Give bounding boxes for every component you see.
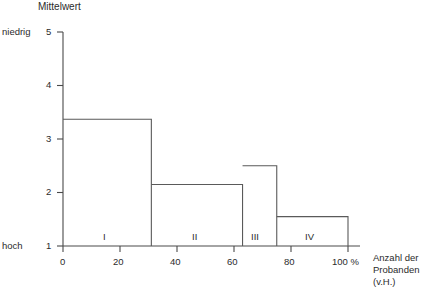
x-tick-label-100: 100 %: [332, 256, 359, 267]
segment-label-III: III: [251, 231, 259, 242]
x-tick-label-0: 0: [60, 256, 65, 267]
x-tick-label-80: 80: [284, 256, 295, 267]
x-tick-label-40: 40: [170, 256, 181, 267]
segment-label-II: II: [192, 231, 197, 242]
segment-label-I: I: [103, 231, 106, 242]
y-axis-title: Mittelwert: [38, 1, 81, 12]
y-tick-label-4: 4: [46, 79, 51, 90]
segment-label-IV: IV: [305, 231, 314, 242]
y-tick-label-2: 2: [46, 186, 51, 197]
x-tick-label-60: 60: [227, 256, 238, 267]
bar-segment-III: [243, 166, 277, 246]
y-axis-note-bottom: hoch: [2, 240, 23, 251]
y-tick-label-3: 3: [46, 133, 51, 144]
y-axis-note-top: niedrig: [2, 26, 31, 37]
x-axis-title-line2: Probanden: [373, 264, 419, 275]
x-axis-title-line1: Anzahl der: [373, 252, 418, 263]
y-tick-label-1: 1: [46, 240, 51, 251]
chart-figure: Mittelwert niedrig hoch 5 4 3 2 1 0 20 4…: [0, 0, 432, 298]
x-axis-title-line3: (v.H.): [373, 276, 396, 287]
chart-canvas: [0, 0, 432, 298]
y-tick-label-5: 5: [46, 26, 51, 37]
bar-segment-I: [63, 119, 151, 246]
x-tick-label-20: 20: [113, 256, 124, 267]
